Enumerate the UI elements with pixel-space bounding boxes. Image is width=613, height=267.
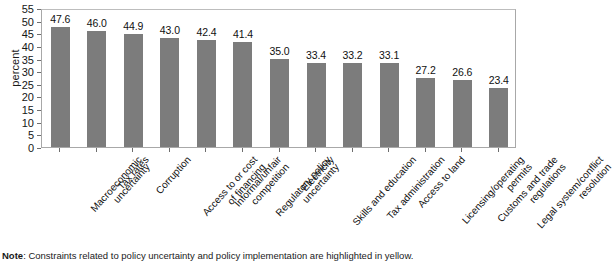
bar-value-label: 23.4 — [489, 74, 509, 86]
bar[interactable] — [233, 42, 252, 147]
note-text: : Constraints related to policy uncertai… — [23, 250, 413, 261]
bar-slot: 23.4 — [489, 10, 508, 147]
bar-slot: 47.6 — [51, 10, 70, 147]
bar[interactable] — [270, 59, 289, 147]
x-axis-tick-mark — [205, 148, 206, 152]
bar-slot: 33.2 — [343, 10, 362, 147]
y-axis-tick-label: 50 — [8, 17, 34, 27]
bar-slot: 33.4 — [307, 10, 326, 147]
y-axis-tick-label: 55 — [8, 4, 34, 14]
y-axis-tick-label: 25 — [8, 80, 34, 90]
x-axis-tick-mark — [498, 148, 499, 152]
x-axis-category-label-line: Corruption — [154, 154, 193, 196]
x-axis-tick-mark — [425, 148, 426, 152]
bar-slot: 46.0 — [87, 10, 106, 147]
bar-value-label: 35.0 — [269, 45, 289, 57]
x-axis-tick-mark — [315, 148, 316, 152]
plot-area: 47.646.044.943.042.441.435.033.433.233.1… — [41, 9, 516, 148]
bar-slot: 41.4 — [233, 10, 252, 147]
x-axis-tick-mark — [388, 148, 389, 152]
bar-value-label: 43.0 — [160, 24, 180, 36]
bar[interactable] — [197, 40, 216, 147]
bar-value-label: 46.0 — [87, 17, 107, 29]
bar[interactable] — [307, 63, 326, 147]
bar-value-label: 42.4 — [196, 26, 216, 38]
bar-slot: 42.4 — [197, 10, 216, 147]
bar[interactable] — [380, 63, 399, 147]
bar-series: 47.646.044.943.042.441.435.033.433.233.1… — [42, 10, 515, 147]
note-prefix: Note — [2, 250, 23, 261]
bar[interactable] — [416, 78, 435, 147]
bar-slot: 33.1 — [380, 10, 399, 147]
bar-slot: 27.2 — [416, 10, 435, 147]
x-axis-tick-mark — [279, 148, 280, 152]
bar-slot: 44.9 — [124, 10, 143, 147]
bar[interactable] — [160, 38, 179, 147]
bar-value-label: 27.2 — [416, 64, 436, 76]
bar-value-label: 33.4 — [306, 49, 326, 61]
y-axis-tick-mark — [37, 148, 41, 149]
x-axis-tick-mark — [352, 148, 353, 152]
bar[interactable] — [124, 34, 143, 147]
y-axis-tick-label: 40 — [8, 42, 34, 52]
bar[interactable] — [343, 63, 362, 147]
bar[interactable] — [87, 31, 106, 147]
bar[interactable] — [489, 88, 508, 147]
figure-note: Note: Constraints related to policy unce… — [2, 250, 413, 262]
bar-value-label: 33.1 — [379, 49, 399, 61]
bar-value-label: 47.6 — [50, 13, 70, 25]
y-axis-tick-label: 45 — [8, 29, 34, 39]
bar-slot: 43.0 — [160, 10, 179, 147]
y-axis-tick-label: 15 — [8, 105, 34, 115]
x-axis-tick-mark — [132, 148, 133, 152]
bar-slot: 35.0 — [270, 10, 289, 147]
x-axis-category-label: Corruption — [154, 154, 193, 196]
x-axis-tick-mark — [242, 148, 243, 152]
bar-value-label: 33.2 — [343, 49, 363, 61]
y-axis-tick-label: 35 — [8, 55, 34, 65]
y-axis-tick-label: 0 — [8, 143, 34, 153]
y-axis-tick-label: 30 — [8, 67, 34, 77]
y-axis-tick-label: 20 — [8, 92, 34, 102]
bar-value-label: 26.6 — [452, 66, 472, 78]
y-axis-tick-label: 5 — [8, 130, 34, 140]
x-axis-tick-mark — [96, 148, 97, 152]
bar[interactable] — [51, 27, 70, 147]
x-axis-tick-mark — [169, 148, 170, 152]
y-axis-tick-label: 10 — [8, 118, 34, 128]
bar-value-label: 41.4 — [233, 28, 253, 40]
bar-value-label: 44.9 — [123, 20, 143, 32]
bar[interactable] — [453, 80, 472, 147]
bar-slot: 26.6 — [453, 10, 472, 147]
x-axis-tick-mark — [461, 148, 462, 152]
x-axis-tick-mark — [59, 148, 60, 152]
